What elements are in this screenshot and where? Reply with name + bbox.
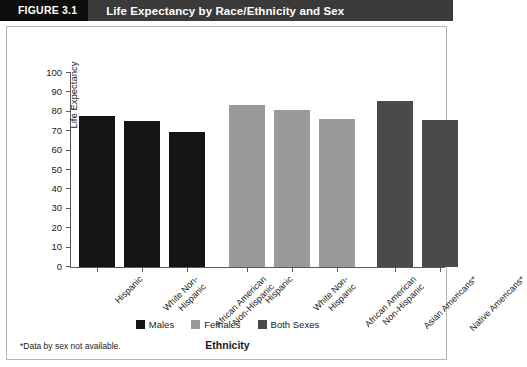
x-axis-tick <box>142 267 143 272</box>
x-axis-tick <box>440 267 441 272</box>
y-axis-tick-label: 80 <box>51 105 62 116</box>
y-axis-tick: 100 <box>66 72 71 73</box>
y-axis-tick-label: 60 <box>51 144 62 155</box>
figure-number-tag: FIGURE 3.1 <box>0 0 88 21</box>
y-axis-title: Life Expectancy <box>68 25 79 165</box>
legend-label-females: Females <box>204 319 240 330</box>
legend-item-males: Males <box>136 319 174 330</box>
x-axis-tick <box>292 267 293 272</box>
bar-males <box>169 132 205 267</box>
y-axis-tick-label: 70 <box>51 125 62 136</box>
y-axis-tick: 90 <box>66 91 71 92</box>
figure-title: Life Expectancy by Race/Ethnicity and Se… <box>106 5 344 17</box>
x-axis-category-label: Hispanic <box>113 274 145 306</box>
x-axis-category-label: White Non-Hispanic <box>311 274 358 321</box>
y-axis-tick-label: 0 <box>57 261 62 272</box>
y-axis-tick: 0 <box>66 266 71 267</box>
chart-legend: Males Females Both Sexes <box>7 319 448 330</box>
x-axis-tick <box>337 267 338 272</box>
bar-males <box>79 116 115 267</box>
y-axis-tick: 30 <box>66 208 71 209</box>
x-axis-category-label: White Non-Hispanic <box>161 274 208 321</box>
y-axis-tick: 70 <box>66 130 71 131</box>
legend-swatch-both-sexes-icon <box>258 320 267 329</box>
x-axis-title: Ethnicity <box>7 339 448 351</box>
bar-both-sexes <box>422 120 458 267</box>
y-axis-tick-label: 40 <box>51 183 62 194</box>
x-axis-tick <box>187 267 188 272</box>
figure-frame: Life Expectancy 0102030405060708090100 H… <box>6 26 447 360</box>
x-axis-tick <box>97 267 98 272</box>
x-axis-tick <box>247 267 248 272</box>
y-axis-tick-label: 100 <box>46 67 62 78</box>
legend-item-both-sexes: Both Sexes <box>258 319 320 330</box>
legend-swatch-females-icon <box>191 320 200 329</box>
y-axis-tick: 10 <box>66 247 71 248</box>
bar-females <box>274 110 310 267</box>
y-axis-tick-label: 10 <box>51 241 62 252</box>
x-axis-tick <box>395 267 396 272</box>
y-axis-tick-label: 20 <box>51 222 62 233</box>
y-axis-tick-label: 90 <box>51 86 62 97</box>
y-axis-tick: 80 <box>66 111 71 112</box>
bar-males <box>124 121 160 267</box>
y-axis-tick: 20 <box>66 227 71 228</box>
legend-label-both-sexes: Both Sexes <box>271 319 320 330</box>
legend-item-females: Females <box>191 319 240 330</box>
legend-swatch-males-icon <box>136 320 145 329</box>
y-axis-tick: 40 <box>66 188 71 189</box>
y-axis-tick-label: 50 <box>51 164 62 175</box>
y-axis-tick: 60 <box>66 150 71 151</box>
bar-both-sexes <box>377 101 413 267</box>
legend-label-males: Males <box>149 319 174 330</box>
bar-females <box>319 119 355 267</box>
y-axis-tick-label: 30 <box>51 202 62 213</box>
chart-plot-area: Life Expectancy 0102030405060708090100 H… <box>70 73 445 268</box>
bar-females <box>229 105 265 267</box>
figure-header-bar: FIGURE 3.1 Life Expectancy by Race/Ethni… <box>0 0 453 21</box>
y-axis-tick: 50 <box>66 169 71 170</box>
